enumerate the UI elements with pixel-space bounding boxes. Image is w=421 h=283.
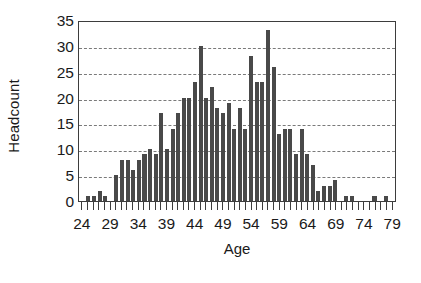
tick-mark: [126, 202, 127, 210]
bar: [243, 129, 247, 201]
tick-mark: [335, 202, 336, 210]
tick-mark: [149, 202, 150, 210]
bar-slot: [389, 22, 395, 201]
bar: [227, 103, 231, 201]
tick-mark: [138, 202, 139, 210]
tick-mark: [143, 202, 144, 210]
bar: [120, 160, 124, 201]
bar: [238, 108, 242, 201]
tick-mark: [194, 202, 195, 210]
bar: [154, 154, 158, 201]
tick-mark: [93, 202, 94, 210]
bar-series: [79, 22, 395, 201]
bar: [171, 129, 175, 201]
bar: [92, 196, 96, 201]
x-tick-label: 79: [375, 214, 409, 234]
tick-mark: [81, 202, 82, 210]
y-tick-label: 15: [30, 116, 74, 132]
tick-mark: [358, 202, 359, 210]
bar: [126, 160, 130, 201]
tick-mark: [177, 202, 178, 210]
bar: [210, 87, 214, 201]
bar: [311, 165, 315, 201]
y-tick-label: 5: [30, 168, 74, 184]
tick-mark: [352, 202, 353, 210]
bar: [159, 113, 163, 201]
tick-mark: [104, 202, 105, 210]
y-tick-label: 10: [30, 142, 74, 158]
bar: [176, 113, 180, 201]
tick-mark: [346, 202, 347, 210]
tick-mark: [217, 202, 218, 210]
tick-mark: [380, 202, 381, 210]
tick-mark: [245, 202, 246, 210]
bar: [255, 82, 259, 201]
tick-slot: [389, 202, 395, 211]
tick-mark: [313, 202, 314, 210]
bar: [300, 129, 304, 201]
bar: [272, 67, 276, 201]
tick-mark: [205, 202, 206, 210]
tick-mark: [324, 202, 325, 210]
bar: [182, 98, 186, 201]
tick-mark: [290, 202, 291, 210]
tick-mark: [296, 202, 297, 210]
tick-mark: [121, 202, 122, 210]
plot-area: [78, 21, 396, 202]
tick-mark: [301, 202, 302, 210]
tick-mark: [98, 202, 99, 210]
y-axis-title: Headcount: [3, 21, 23, 211]
bar: [249, 56, 253, 201]
tick-mark: [251, 202, 252, 210]
bar: [333, 180, 337, 201]
bar: [86, 196, 90, 201]
tick-mark: [183, 202, 184, 210]
y-tick-label: 35: [30, 13, 74, 29]
y-axis-tick-labels: 05101520253035: [30, 13, 74, 209]
tick-mark: [87, 202, 88, 210]
y-tick-label: 25: [30, 65, 74, 81]
tick-mark: [222, 202, 223, 210]
bar: [322, 186, 326, 202]
tick-mark: [279, 202, 280, 210]
bar: [260, 82, 264, 201]
bar: [372, 196, 376, 201]
tick-mark: [115, 202, 116, 210]
bar: [187, 98, 191, 201]
tick-mark: [341, 202, 342, 210]
tick-mark: [234, 202, 235, 210]
bar: [305, 154, 309, 201]
tick-mark: [375, 202, 376, 210]
tick-mark: [110, 202, 111, 210]
tick-mark: [262, 202, 263, 210]
tick-mark: [330, 202, 331, 210]
y-tick-label: 30: [30, 39, 74, 55]
x-axis-tick-labels: 242934394449545964697479: [78, 214, 396, 236]
tick-mark: [188, 202, 189, 210]
bar: [215, 108, 219, 201]
bar: [350, 196, 354, 201]
tick-mark: [166, 202, 167, 210]
tick-mark: [256, 202, 257, 210]
bar: [142, 154, 146, 201]
bar: [283, 129, 287, 201]
tick-mark: [155, 202, 156, 210]
bar: [137, 160, 141, 201]
bar: [103, 196, 107, 201]
tick-mark: [132, 202, 133, 210]
bar: [266, 30, 270, 201]
bar: [98, 191, 102, 201]
x-axis-title: Age: [78, 240, 396, 257]
age-headcount-histogram: Headcount 05101520253035 242934394449545…: [0, 0, 421, 283]
tick-mark: [386, 202, 387, 210]
tick-mark: [228, 202, 229, 210]
bar: [344, 196, 348, 201]
tick-mark: [160, 202, 161, 210]
bar: [221, 113, 225, 201]
bar: [384, 196, 388, 201]
bar: [294, 154, 298, 201]
tick-mark: [392, 202, 393, 210]
bar: [316, 191, 320, 201]
bar: [288, 129, 292, 201]
bar: [199, 46, 203, 201]
